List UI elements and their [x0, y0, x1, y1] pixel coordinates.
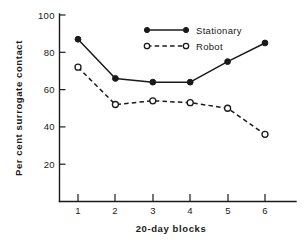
x-tick-label-6: 6 — [262, 205, 268, 216]
data-point — [112, 102, 118, 108]
y-tick-label-100: 100 — [38, 10, 55, 21]
x-tick-label-1: 1 — [75, 205, 81, 216]
x-axis-ticks — [78, 194, 265, 202]
x-tick-label-4: 4 — [187, 205, 193, 216]
data-point — [225, 105, 231, 111]
x-tick-label-2: 2 — [112, 205, 118, 216]
y-tick-label-80: 80 — [44, 47, 55, 58]
data-point — [75, 64, 81, 70]
data-point — [150, 79, 156, 85]
legend-entry-robot: Robot — [144, 41, 223, 52]
data-point — [187, 79, 193, 85]
y-tick-label-20: 20 — [44, 159, 55, 170]
series-stationary — [75, 36, 268, 85]
data-point — [262, 40, 268, 46]
series-stationary-markers — [75, 36, 268, 85]
chart-figure: 100 80 60 40 20 1 2 3 4 5 6 20-day block… — [0, 0, 307, 242]
series-robot-line — [78, 67, 265, 134]
legend-label-robot: Robot — [196, 41, 223, 52]
line-chart: 100 80 60 40 20 1 2 3 4 5 6 20-day block… — [0, 0, 307, 242]
data-point — [75, 36, 81, 42]
data-point — [225, 59, 231, 65]
x-tick-label-5: 5 — [225, 205, 231, 216]
series-robot-markers — [75, 64, 268, 137]
data-point — [150, 98, 156, 104]
y-axis-title: Per cent surrogate contact — [13, 40, 24, 176]
legend-label-stationary: Stationary — [196, 25, 242, 36]
x-axis-title: 20-day blocks — [136, 223, 207, 234]
y-tick-label-40: 40 — [44, 121, 55, 132]
data-point — [113, 76, 119, 82]
y-axis-ticks — [60, 15, 66, 164]
y-tick-label-60: 60 — [44, 84, 55, 95]
series-robot — [75, 64, 268, 137]
chart-legend: Stationary Robot — [144, 25, 241, 52]
legend-entry-stationary: Stationary — [144, 25, 241, 36]
data-point — [262, 131, 268, 137]
x-tick-label-3: 3 — [150, 205, 156, 216]
data-point — [187, 100, 193, 106]
